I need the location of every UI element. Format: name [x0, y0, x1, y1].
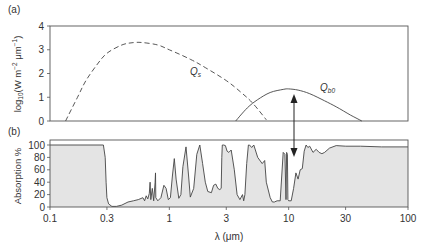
svg-text:3: 3: [38, 44, 44, 55]
svg-text:20: 20: [34, 189, 46, 200]
svg-text:0: 0: [39, 202, 45, 213]
double-arrow-icon: [291, 94, 298, 157]
svg-text:40: 40: [34, 177, 46, 188]
panel-a-y-label: log10(W m−2 μm−1): [11, 36, 24, 113]
svg-text:80: 80: [34, 152, 46, 163]
absorption-area: [50, 145, 408, 207]
panel-b: 020406080100 0.10.3131030100 Absorption …: [12, 140, 417, 243]
panel-a-frame: [50, 26, 408, 121]
svg-text:30: 30: [340, 213, 352, 224]
svg-text:1: 1: [38, 92, 44, 103]
panel-b-label: (b): [8, 126, 20, 137]
svg-text:3: 3: [223, 213, 229, 224]
qb0-label: Qb0: [320, 82, 335, 94]
panel-b-y-axis: 020406080100: [28, 140, 50, 213]
svg-text:100: 100: [400, 213, 417, 224]
svg-text:100: 100: [28, 140, 45, 151]
svg-text:4: 4: [38, 21, 44, 32]
panel-a: 01234 log10(W m−2 μm−1) Qs Qb0: [11, 21, 408, 127]
svg-text:60: 60: [34, 164, 46, 175]
qs-label: Qs: [190, 66, 202, 78]
svg-text:2: 2: [38, 68, 44, 79]
x-axis-label: λ (μm): [215, 231, 244, 242]
qs-curve: [66, 42, 267, 121]
x-axis: 0.10.3131030100: [43, 207, 417, 224]
svg-text:0: 0: [38, 116, 44, 127]
figure: (a) (b) 01234 log10(W m−2 μm−1) Qs Qb0 0…: [0, 0, 425, 248]
svg-text:10: 10: [283, 213, 295, 224]
panel-b-y-label: Absorption %: [12, 147, 23, 204]
svg-text:0.1: 0.1: [43, 213, 57, 224]
panel-a-y-axis: 01234: [38, 21, 50, 127]
panel-a-label: (a): [8, 4, 20, 15]
svg-text:0.3: 0.3: [100, 213, 114, 224]
svg-text:1: 1: [167, 213, 173, 224]
